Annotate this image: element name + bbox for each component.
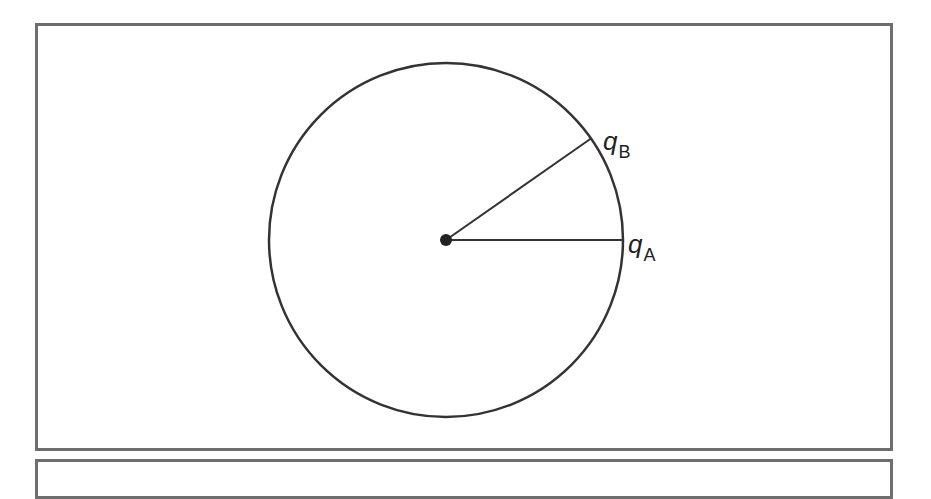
radius-to-qB: [446, 138, 591, 240]
label-qA: qA: [628, 231, 655, 257]
label-qA-subscript: A: [643, 245, 655, 265]
label-qB-subscript: B: [618, 142, 630, 162]
label-qB-symbol: q: [603, 126, 617, 156]
label-qB: qB: [603, 128, 630, 154]
center-point: [440, 234, 452, 246]
label-qA-symbol: q: [628, 229, 642, 259]
